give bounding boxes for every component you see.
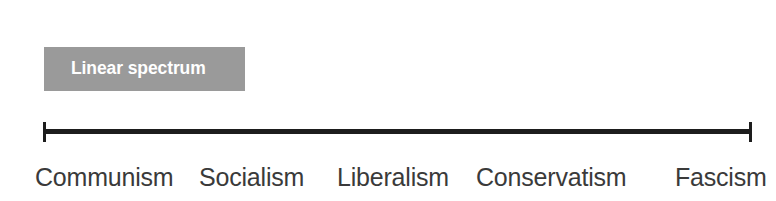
axis-label-liberalism: Liberalism xyxy=(337,160,449,194)
axis-label-fascism: Fascism xyxy=(675,160,767,194)
title-chip-label: Linear spectrum xyxy=(71,60,206,78)
axis-label-conservatism: Conservatism xyxy=(476,160,626,194)
spectrum-axis xyxy=(43,122,752,142)
title-chip: Linear spectrum xyxy=(44,47,245,91)
axis-right-cap-icon xyxy=(749,122,752,142)
linear-spectrum-figure: Linear spectrum Communism Socialism Libe… xyxy=(0,0,776,201)
axis-label-socialism: Socialism xyxy=(199,160,304,194)
axis-label-row: Communism Socialism Liberalism Conservat… xyxy=(0,160,776,201)
axis-line xyxy=(43,129,752,134)
axis-label-communism: Communism xyxy=(35,160,174,194)
